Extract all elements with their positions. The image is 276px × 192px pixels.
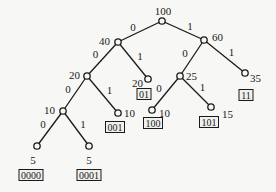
node-weight-label: 5 <box>30 154 36 166</box>
edge-bit-label: 0 <box>65 83 71 95</box>
huffman-code-label: 0001 <box>79 170 99 181</box>
tree-node <box>34 143 40 149</box>
edge-bit-label: 1 <box>200 81 206 93</box>
node-weight-label: 20 <box>69 69 81 81</box>
tree-node <box>208 104 214 110</box>
edge-bit-label: 0 <box>156 82 162 94</box>
tree-node <box>84 73 90 79</box>
tree-node <box>242 70 248 76</box>
node-weight-label: 10 <box>44 104 56 116</box>
tree-node <box>115 39 121 45</box>
tree-node <box>201 37 207 43</box>
tree-node <box>86 143 92 149</box>
edge-bit-label: 1 <box>80 118 86 130</box>
huffman-code-label: 0000 <box>21 170 41 181</box>
tree-edge <box>87 42 118 76</box>
edge-bit-label: 0 <box>40 118 46 130</box>
edge-bit-label: 0 <box>182 47 188 59</box>
edge-bit-label: 0 <box>130 21 136 33</box>
tree-edge <box>162 21 204 40</box>
node-weight-label: 5 <box>86 154 92 166</box>
edge-bit-label: 1 <box>229 46 235 58</box>
node-weight-label: 15 <box>222 108 234 120</box>
edge-bit-label: 1 <box>187 20 193 32</box>
edge-bit-label: 1 <box>107 84 113 96</box>
huffman-code-label: 01 <box>139 89 149 100</box>
edge-bit-label: 0 <box>93 48 99 60</box>
tree-edge <box>87 76 118 113</box>
huffman-tree: 010101010101 1004060202025351010101555 0… <box>0 0 276 192</box>
tree-node <box>115 110 121 116</box>
tree-edge <box>118 42 148 79</box>
node-weight-label: 35 <box>250 72 262 84</box>
node-weight-label: 40 <box>99 35 111 47</box>
node-weight-label: 100 <box>155 5 172 17</box>
huffman-code-label: 11 <box>241 90 251 101</box>
edge-bit-label: 1 <box>137 50 143 62</box>
tree-node <box>177 73 183 79</box>
node-weight-label: 10 <box>124 107 136 119</box>
huffman-code-label: 100 <box>146 118 161 129</box>
tree-node <box>145 76 151 82</box>
tree-node <box>60 108 66 114</box>
node-weight-label: 20 <box>132 77 144 89</box>
huffman-code-label: 001 <box>108 122 123 133</box>
tree-edge <box>204 40 245 73</box>
node-weight-label: 60 <box>212 31 224 43</box>
huffman-code-label: 101 <box>202 117 217 128</box>
tree-edge <box>118 21 162 42</box>
tree-node <box>149 107 155 113</box>
tree-node <box>159 18 165 24</box>
node-weight-label: 25 <box>186 70 198 82</box>
